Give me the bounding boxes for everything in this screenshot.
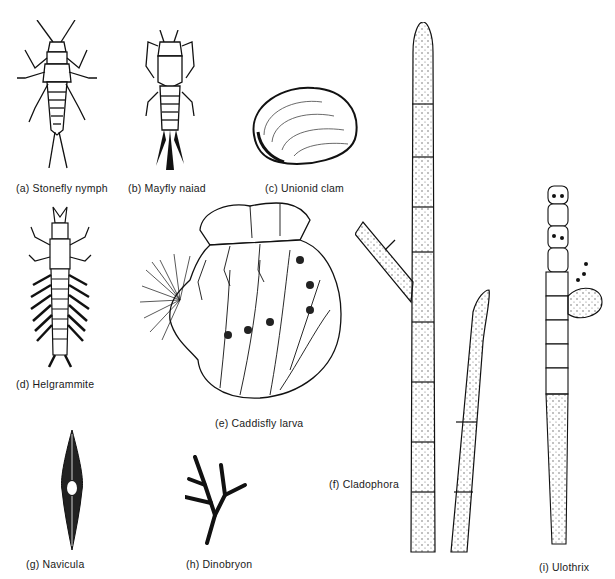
ulothrix-icon [540,184,610,554]
unionid-clam-icon [244,80,364,170]
panel-g-label: (g) Navicula [26,558,84,570]
stonefly-nymph-icon [15,20,100,170]
dinobryon-icon [185,455,265,545]
panel-e-label: (e) Caddisfly larva [215,417,303,429]
panel-d-label: (d) Helgrammite [16,378,94,390]
helgrammite-icon [25,205,95,370]
panel-f-label: (f) Cladophora [329,478,399,490]
panel-a-label: (a) Stonefly nymph [16,182,108,194]
panel-h-label: (h) Dinobryon [186,558,252,570]
caddisfly-larva-icon [140,190,350,410]
navicula-icon [56,430,88,550]
panel-i-label: (i) Ulothrix [539,561,589,573]
mayfly-naiad-icon [140,30,200,170]
cladophora-icon [355,22,525,557]
